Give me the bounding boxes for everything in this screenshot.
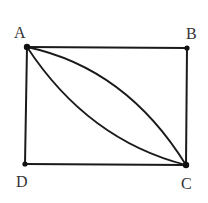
label-d: D bbox=[16, 173, 28, 190]
point-b bbox=[184, 45, 189, 50]
segment-cd bbox=[25, 164, 186, 165]
label-a: A bbox=[14, 24, 26, 41]
arc-ac-upper bbox=[27, 47, 186, 165]
rectangle-lens-diagram: A B C D bbox=[0, 0, 208, 203]
label-b: B bbox=[186, 25, 197, 42]
arc-ac-lower bbox=[27, 47, 186, 165]
segment-bc bbox=[186, 48, 187, 165]
point-a bbox=[24, 44, 30, 50]
label-c: C bbox=[181, 175, 192, 192]
point-d bbox=[22, 161, 27, 166]
segment-ab bbox=[27, 47, 187, 48]
point-c bbox=[183, 162, 189, 168]
segment-da bbox=[25, 47, 27, 164]
